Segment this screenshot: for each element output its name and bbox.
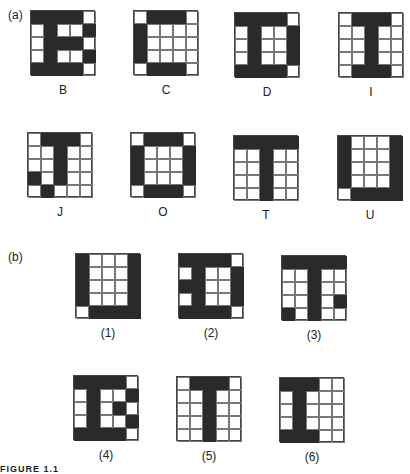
grid-cell <box>364 136 377 149</box>
grid-cell <box>390 136 403 149</box>
grid-cell <box>247 136 260 149</box>
grid-cell <box>177 390 190 403</box>
grid-cell <box>67 172 80 185</box>
grid-cell <box>332 404 345 417</box>
grid-cell <box>76 254 89 267</box>
grid-cell <box>102 293 115 306</box>
grid-cell <box>364 149 377 162</box>
grid-cell <box>113 389 126 402</box>
grid-cell <box>293 417 306 430</box>
grid-cell <box>41 159 54 172</box>
grid-cell <box>334 269 347 282</box>
grid-cell <box>231 280 244 293</box>
grid-cell <box>248 26 261 39</box>
pattern-label: (1) <box>75 326 141 340</box>
grid-cell <box>31 50 44 63</box>
grid-cell <box>274 13 287 26</box>
grid-cell <box>319 391 332 404</box>
grid-cell <box>87 376 100 389</box>
grid-cell <box>115 267 128 280</box>
grid-cell <box>364 188 377 201</box>
grid-cell <box>218 293 231 306</box>
grid-cell <box>247 162 260 175</box>
grid-cell <box>31 37 44 50</box>
grid-cell <box>231 306 244 319</box>
pattern-label: O <box>130 205 196 219</box>
grid-cell <box>83 37 96 50</box>
grid-cell <box>76 280 89 293</box>
grid-cell <box>308 295 321 308</box>
grid-cell <box>134 50 147 63</box>
grid-cell <box>295 295 308 308</box>
grid-cell <box>160 63 173 76</box>
grid-cell <box>126 428 139 441</box>
grid-cell <box>334 308 347 321</box>
grid-cell <box>205 267 218 280</box>
grid-cell <box>321 295 334 308</box>
grid-cell <box>87 415 100 428</box>
grid-cell <box>365 26 378 39</box>
grid-cell <box>321 308 334 321</box>
grid-cell <box>273 149 286 162</box>
grid-cell <box>234 162 247 175</box>
grid-cell <box>83 24 96 37</box>
grid-cell <box>295 282 308 295</box>
grid-cell <box>229 403 242 416</box>
grid-cell <box>216 377 229 390</box>
grid-cell <box>352 52 365 65</box>
part-a-pattern: D <box>234 12 300 99</box>
part-a-pattern: I <box>338 12 404 99</box>
grid-cell <box>83 50 96 63</box>
grid-cell <box>89 280 102 293</box>
grid-cell <box>44 63 57 76</box>
grid-cell <box>234 149 247 162</box>
grid-cell <box>351 162 364 175</box>
grid-cell <box>186 24 199 37</box>
grid-cell <box>144 185 157 198</box>
part-a-label: (a) <box>8 8 23 22</box>
grid-cell <box>67 146 80 159</box>
grid-cell <box>28 133 41 146</box>
grid-cell <box>177 377 190 390</box>
grid-cell <box>186 63 199 76</box>
grid-cell <box>190 377 203 390</box>
grid-cell <box>365 13 378 26</box>
grid-cell <box>70 11 83 24</box>
part-b-pattern: (5) <box>176 376 242 463</box>
grid-cell <box>203 390 216 403</box>
pixel-grid <box>73 375 138 440</box>
grid-cell <box>170 185 183 198</box>
grid-cell <box>365 39 378 52</box>
grid-cell <box>76 267 89 280</box>
grid-cell <box>286 136 299 149</box>
pixel-grid <box>27 132 92 197</box>
grid-cell <box>80 185 93 198</box>
grid-cell <box>131 146 144 159</box>
grid-cell <box>41 172 54 185</box>
grid-cell <box>44 24 57 37</box>
grid-cell <box>247 175 260 188</box>
grid-cell <box>319 404 332 417</box>
grid-cell <box>126 415 139 428</box>
grid-cell <box>306 391 319 404</box>
pattern-label: (2) <box>178 326 244 340</box>
grid-cell <box>80 133 93 146</box>
grid-cell <box>273 136 286 149</box>
grid-cell <box>378 13 391 26</box>
grid-cell <box>190 403 203 416</box>
grid-cell <box>352 39 365 52</box>
grid-cell <box>261 26 274 39</box>
grid-cell <box>41 146 54 159</box>
grid-cell <box>274 65 287 78</box>
grid-cell <box>190 390 203 403</box>
grid-cell <box>147 63 160 76</box>
grid-cell <box>183 185 196 198</box>
grid-cell <box>261 13 274 26</box>
grid-cell <box>147 11 160 24</box>
grid-cell <box>321 282 334 295</box>
grid-cell <box>128 280 141 293</box>
grid-cell <box>338 175 351 188</box>
grid-cell <box>274 52 287 65</box>
pattern-label: C <box>133 83 199 97</box>
grid-cell <box>115 293 128 306</box>
